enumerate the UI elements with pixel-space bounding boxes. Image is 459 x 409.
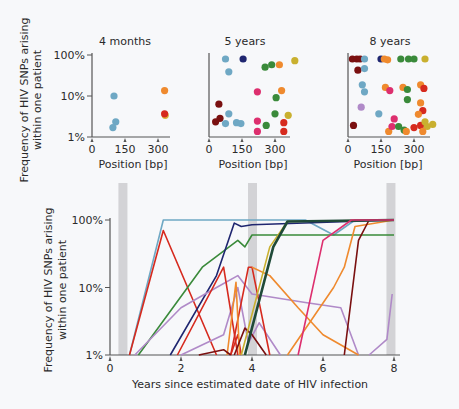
data-point: [225, 110, 232, 117]
x-tick: [157, 138, 160, 142]
data-point: [410, 124, 417, 131]
x-tick-label: 6: [320, 362, 327, 375]
data-point: [358, 104, 365, 111]
data-point: [161, 110, 168, 117]
data-point: [354, 67, 361, 74]
series-line-orange2: [288, 220, 395, 355]
data-point: [391, 115, 398, 122]
hiv-snp-figure: Frequency of HIV SNPs arising within one…: [0, 0, 459, 409]
x-tick: [393, 356, 396, 361]
data-point: [388, 123, 395, 130]
data-point: [420, 85, 427, 92]
data-point: [215, 101, 222, 108]
x-tick-label: 300: [404, 143, 425, 156]
data-point: [384, 56, 391, 63]
series-line-navy: [170, 220, 394, 355]
data-point: [237, 120, 244, 127]
data-point: [268, 61, 275, 68]
x-tick-label: 0: [107, 362, 114, 375]
data-point: [404, 86, 411, 93]
panel1-xlabel: Position [bp]: [99, 158, 168, 171]
y-tick-label: 1%: [86, 349, 103, 362]
panel-title-4-months: 4 months: [99, 35, 151, 48]
x-tick-label: 4: [249, 362, 256, 375]
y-tick-label: 10%: [61, 90, 85, 103]
data-point: [262, 64, 269, 71]
y-tick-label: 100%: [54, 49, 85, 62]
data-point: [417, 99, 424, 106]
x-tick-label: 8: [391, 362, 398, 375]
series-line-red-early: [130, 231, 217, 356]
panel-title-8-years: 8 years: [370, 35, 411, 48]
data-point: [254, 88, 261, 95]
data-point: [375, 110, 382, 117]
series-line-olive: [241, 220, 394, 355]
x-tick: [251, 356, 254, 361]
x-tick-label: 0: [345, 143, 352, 156]
series-line-lilac: [135, 276, 359, 355]
data-point: [161, 87, 168, 94]
y-tick-label: 10%: [79, 282, 103, 295]
x-tick-label: 0: [206, 143, 213, 156]
data-point: [421, 55, 428, 62]
bottom-y-axis-label: Frequency of HIV SNPs arising within one…: [42, 208, 69, 373]
data-point: [225, 68, 232, 75]
data-point: [271, 110, 278, 117]
bottom-xlabel: Years since estimated date of HIV infect…: [131, 378, 368, 391]
panel-title-5-years: 5 years: [225, 35, 266, 48]
data-point: [273, 94, 280, 101]
data-point: [361, 88, 368, 95]
data-point: [222, 120, 229, 127]
timepoint-shade: [118, 183, 127, 355]
x-tick-label: 150: [115, 143, 136, 156]
scatter-panel-4-months: 1%10%100%0150300: [54, 49, 170, 156]
y-tick-label: 100%: [72, 214, 103, 227]
data-point: [386, 87, 393, 94]
bottom-ylabel-line2: within one patient: [56, 239, 69, 340]
data-point: [350, 122, 357, 129]
x-tick: [347, 138, 350, 142]
bottom-ylabel-line1: Frequency of HIV SNPs arising: [42, 208, 55, 373]
data-point: [419, 128, 426, 135]
x-tick: [91, 138, 94, 142]
x-tick-label: 0: [89, 143, 96, 156]
data-point: [415, 111, 422, 118]
data-point: [110, 92, 117, 99]
data-point: [361, 55, 368, 62]
data-point: [263, 122, 270, 129]
data-point: [359, 81, 366, 88]
x-tick: [180, 356, 183, 361]
data-point: [276, 61, 283, 68]
top-y-axis-label: Frequency of HIV SNPs arising within one…: [18, 18, 44, 183]
top-ylabel-line2: within one patient: [31, 49, 44, 150]
x-tick: [322, 356, 325, 361]
data-point: [404, 96, 411, 103]
data-point: [240, 55, 247, 62]
data-point: [361, 65, 368, 72]
scatter-panel-5-years: 0150300: [206, 53, 299, 156]
data-point: [429, 121, 436, 128]
x-tick-label: 300: [265, 143, 286, 156]
data-point: [410, 55, 417, 62]
data-point: [397, 55, 404, 62]
data-point: [278, 87, 285, 94]
data-point: [291, 57, 298, 64]
data-point: [280, 128, 287, 135]
x-tick-label: 150: [371, 143, 392, 156]
data-point: [280, 119, 287, 126]
x-tick-label: 150: [232, 143, 253, 156]
top-ylabel-line1: Frequency of HIV SNPs arising: [18, 18, 31, 183]
data-point: [403, 128, 410, 135]
data-point: [254, 128, 261, 135]
x-tick: [124, 138, 127, 142]
x-tick: [274, 138, 277, 142]
data-point: [285, 112, 292, 119]
data-point: [109, 124, 116, 131]
scatter-panel-8-years: 0150300: [345, 53, 437, 156]
data-point: [222, 55, 229, 62]
panel2-xlabel: Position [bp]: [219, 158, 288, 171]
x-tick: [380, 138, 383, 142]
x-tick: [208, 138, 211, 142]
panel3-xlabel: Position [bp]: [354, 158, 423, 171]
x-tick: [109, 356, 112, 361]
